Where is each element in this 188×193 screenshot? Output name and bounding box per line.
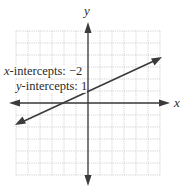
x-axis-left-arrow-icon	[9, 100, 20, 107]
y-axis-up-arrow-icon	[85, 22, 92, 33]
x-intercept-annotation: x-intercepts: −2	[4, 65, 82, 78]
x-axis-label: x	[174, 96, 180, 109]
y-intercept-text: -intercepts: 1	[22, 79, 88, 93]
line-arrow-lower-icon	[15, 117, 26, 126]
y-intercept-annotation: y-intercepts: 1	[16, 80, 87, 93]
x-intercept-text: -intercepts: −2	[10, 64, 83, 78]
x-axis-right-arrow-icon	[159, 100, 170, 107]
y-axis-label: y	[84, 4, 90, 17]
axes	[9, 22, 170, 186]
y-axis-down-arrow-icon	[85, 175, 92, 186]
coordinate-plane	[0, 0, 188, 193]
